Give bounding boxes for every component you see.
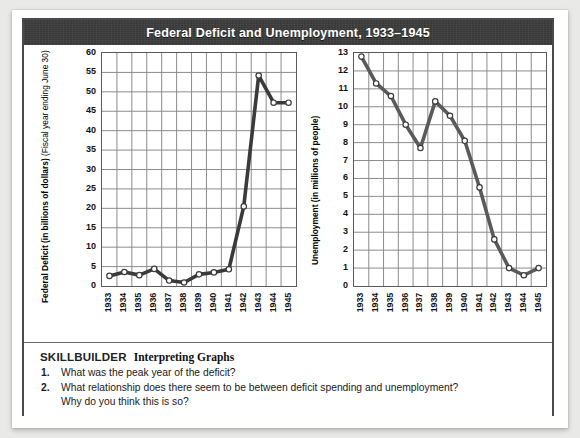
y-tick-label: 1 xyxy=(343,262,348,272)
chart-left-y-ticks: 051015202530354045505560 xyxy=(74,45,96,287)
chart-left-y-axis-title: Federal Deficit (in billions of dollars) xyxy=(40,158,50,303)
x-tick-label: 1940 xyxy=(208,293,218,312)
y-tick-label: 40 xyxy=(86,125,96,135)
skillbuilder-section: SKILLBUILDERInterpreting Graphs 1.What w… xyxy=(24,342,552,416)
x-tick-label: 1934 xyxy=(370,293,380,312)
series-markers xyxy=(359,54,542,278)
chart-right-plot-area xyxy=(353,52,547,287)
y-tick-label: 10 xyxy=(86,241,96,251)
series-line xyxy=(109,76,288,283)
charts-area: Federal Deficit (in billions of dollars)… xyxy=(24,45,552,342)
chart-right-y-ticks: 012345678910111213 xyxy=(326,45,348,287)
x-tick-label: 1936 xyxy=(148,293,158,312)
y-tick-label: 4 xyxy=(343,208,348,218)
x-tick-label: 1935 xyxy=(133,293,143,312)
x-tick-label: 1942 xyxy=(238,293,248,312)
figure-card: Federal Deficit and Unemployment, 1933–1… xyxy=(12,10,568,428)
x-tick-label: 1933 xyxy=(103,293,113,312)
figure-title: Federal Deficit and Unemployment, 1933–1… xyxy=(146,26,430,40)
x-tick-label: 1943 xyxy=(253,293,263,312)
x-tick-label: 1937 xyxy=(414,293,424,312)
y-tick-label: 0 xyxy=(91,280,96,290)
x-tick-label: 1937 xyxy=(163,293,173,312)
x-tick-label: 1934 xyxy=(118,293,128,312)
chart-svg-federal-deficit xyxy=(102,53,296,286)
x-tick-label: 1941 xyxy=(474,293,484,312)
series-line xyxy=(361,57,538,276)
chart-federal-deficit: Federal Deficit (in billions of dollars)… xyxy=(38,45,304,342)
y-tick-label: 25 xyxy=(86,183,96,193)
y-tick-label: 3 xyxy=(343,226,348,236)
chart-left-y-axis-label: Federal Deficit (in billions of dollars)… xyxy=(40,73,51,303)
x-tick-label: 1940 xyxy=(459,293,469,312)
y-tick-label: 8 xyxy=(343,137,348,147)
skillbuilder-question-list: 1.What was the peak year of the deficit?… xyxy=(40,366,538,410)
question-text: What relationship does there seem to be … xyxy=(61,382,458,393)
x-tick-label: 1944 xyxy=(268,293,278,312)
figure-frame: Federal Deficit and Unemployment, 1933–1… xyxy=(22,18,554,416)
skillbuilder-question: 2.What relationship does there seem to b… xyxy=(40,381,538,410)
question-number: 2. xyxy=(41,381,50,396)
chart-left-plot-area xyxy=(101,52,297,287)
y-tick-label: 7 xyxy=(343,155,348,165)
series-markers xyxy=(107,73,291,285)
chart-right-y-axis-label: Unemployment (in millions of people) xyxy=(310,75,321,305)
y-tick-label: 5 xyxy=(343,190,348,200)
x-tick-label: 1936 xyxy=(400,293,410,312)
skillbuilder-label: SKILLBUILDER xyxy=(40,351,127,363)
x-tick-label: 1945 xyxy=(283,293,293,312)
question-number: 1. xyxy=(41,366,50,381)
skillbuilder-subtitle: Interpreting Graphs xyxy=(134,351,234,363)
y-tick-label: 9 xyxy=(343,119,348,129)
skillbuilder-heading: SKILLBUILDERInterpreting Graphs xyxy=(40,351,538,363)
y-tick-label: 45 xyxy=(86,105,96,115)
y-tick-label: 6 xyxy=(343,172,348,182)
chart-unemployment: Unemployment (in millions of people) 012… xyxy=(306,45,554,342)
x-tick-label: 1942 xyxy=(488,293,498,312)
chart-left-y-axis-subtitle: (Fiscal year ending June 30) xyxy=(40,50,50,156)
chart-right-x-ticks: 1933193419351936193719381939194019411942… xyxy=(353,291,547,337)
x-tick-label: 1939 xyxy=(444,293,454,312)
y-tick-label: 0 xyxy=(343,280,348,290)
y-tick-label: 11 xyxy=(338,83,348,93)
question-text-continued: Why do you think this is so? xyxy=(61,395,538,410)
skillbuilder-question: 1.What was the peak year of the deficit? xyxy=(40,366,538,381)
y-tick-label: 20 xyxy=(86,202,96,212)
x-tick-label: 1944 xyxy=(518,293,528,312)
y-tick-label: 50 xyxy=(86,86,96,96)
y-tick-label: 5 xyxy=(91,261,96,271)
y-tick-label: 60 xyxy=(86,47,96,57)
x-tick-label: 1938 xyxy=(429,293,439,312)
chart-left-x-ticks: 1933193419351936193719381939194019411942… xyxy=(101,291,297,337)
x-tick-label: 1935 xyxy=(385,293,395,312)
x-tick-label: 1941 xyxy=(223,293,233,312)
y-tick-label: 13 xyxy=(338,47,348,57)
y-tick-label: 35 xyxy=(86,144,96,154)
y-tick-label: 30 xyxy=(86,164,96,174)
y-tick-label: 10 xyxy=(338,101,348,111)
x-tick-label: 1938 xyxy=(178,293,188,312)
chart-svg-unemployment xyxy=(354,53,546,286)
y-tick-label: 55 xyxy=(86,66,96,76)
x-tick-label: 1939 xyxy=(193,293,203,312)
y-tick-label: 12 xyxy=(338,65,348,75)
figure-title-banner: Federal Deficit and Unemployment, 1933–1… xyxy=(24,20,552,45)
page-background: Federal Deficit and Unemployment, 1933–1… xyxy=(0,0,580,438)
x-tick-label: 1945 xyxy=(533,293,543,312)
chart-right-y-axis-title: Unemployment (in millions of people) xyxy=(310,115,320,264)
x-tick-label: 1943 xyxy=(503,293,513,312)
y-tick-label: 15 xyxy=(86,222,96,232)
question-text: What was the peak year of the deficit? xyxy=(61,367,236,378)
y-tick-label: 2 xyxy=(343,244,348,254)
x-tick-label: 1933 xyxy=(355,293,365,312)
